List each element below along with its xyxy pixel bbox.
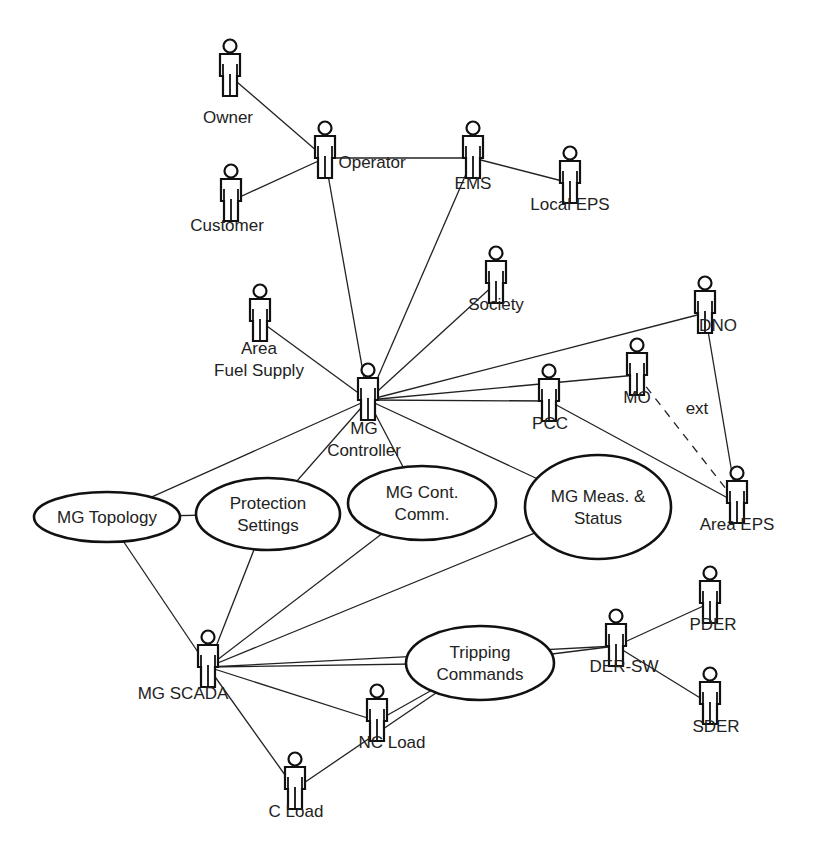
use-case-label: Status — [574, 509, 622, 528]
use-case-ellipse — [406, 626, 554, 700]
edge-operator-mg-controller — [325, 158, 368, 400]
use-case-label: MG Topology — [57, 508, 157, 527]
edge-customer-operator — [231, 158, 325, 201]
actor-label: MO — [623, 388, 650, 407]
use-case-protection-settings[interactable]: ProtectionSettings — [196, 478, 340, 550]
actor-ems[interactable]: EMS — [455, 122, 492, 194]
actor-icon — [315, 122, 335, 179]
actor-label: PCC — [532, 414, 568, 433]
use-case-ellipse — [348, 466, 496, 540]
use-case-mg-meas-status[interactable]: MG Meas. &Status — [525, 455, 671, 559]
actor-dno[interactable]: DNO — [695, 277, 737, 336]
actor-mo[interactable]: MO — [623, 339, 650, 408]
actor-label: Controller — [327, 441, 401, 460]
actor-label: MG SCADA — [138, 684, 229, 703]
use-case-tripping-commands[interactable]: TrippingCommands — [406, 626, 554, 700]
use-case-label: Settings — [237, 516, 298, 535]
actor-label: Customer — [190, 216, 264, 235]
actor-customer[interactable]: Customer — [190, 165, 264, 236]
actor-label: DNO — [699, 316, 737, 335]
use-case-diagram: MG TopologyProtectionSettingsMG Cont.Com… — [0, 0, 815, 850]
actor-icon — [358, 364, 378, 421]
actor-local-eps[interactable]: Local EPS — [530, 147, 609, 215]
edge-mo-mg-controller — [368, 375, 637, 400]
use-case-label: Tripping — [450, 643, 511, 662]
actor-label: Society — [468, 295, 524, 314]
actor-pcc[interactable]: PCC — [532, 365, 568, 434]
edge-ems-mg-controller — [368, 158, 473, 400]
actor-label: Area — [241, 339, 277, 358]
actor-label: Area EPS — [700, 515, 775, 534]
actor-pder[interactable]: PDER — [689, 567, 736, 635]
actor-label: C Load — [269, 802, 324, 821]
edge-mg-scada-nc-load — [208, 667, 377, 721]
actor-label: SDER — [692, 717, 739, 736]
use-case-label: Commands — [437, 665, 524, 684]
use-cases-layer: MG TopologyProtectionSettingsMG Cont.Com… — [34, 455, 671, 700]
actor-sder[interactable]: SDER — [692, 668, 739, 737]
use-case-mg-topology[interactable]: MG Topology — [34, 492, 180, 542]
actor-icon — [463, 122, 483, 179]
edge-dno-mg-controller — [368, 313, 705, 400]
actor-icon — [250, 285, 270, 342]
actor-area-eps[interactable]: Area EPS — [700, 467, 775, 535]
actor-icon — [221, 165, 241, 222]
actor-label: Owner — [203, 108, 253, 127]
actor-area-fuel-supply[interactable]: AreaFuel Supply — [214, 285, 304, 381]
ext-label: ext — [686, 399, 709, 418]
actor-operator[interactable]: Operator — [315, 122, 406, 179]
use-case-ellipse — [196, 478, 340, 550]
actor-mg-scada[interactable]: MG SCADA — [138, 631, 229, 704]
actor-label: DER-SW — [590, 657, 659, 676]
actor-label: EMS — [455, 174, 492, 193]
actor-nc-load[interactable]: NC Load — [358, 685, 425, 753]
use-case-ellipse — [525, 455, 671, 559]
actor-label: NC Load — [358, 733, 425, 752]
actor-label: Local EPS — [530, 195, 609, 214]
edge-pcc-mg-controller — [368, 400, 549, 401]
use-case-label: MG Cont. — [386, 483, 459, 502]
actor-icon — [285, 753, 305, 810]
actor-label: PDER — [689, 615, 736, 634]
use-case-label: Comm. — [395, 505, 450, 524]
actor-icon — [627, 339, 647, 396]
use-case-mg-cont-comm[interactable]: MG Cont.Comm. — [348, 466, 496, 540]
actor-label: MG — [350, 419, 377, 438]
actor-icon — [700, 668, 720, 725]
actor-der-sw[interactable]: DER-SW — [590, 610, 659, 677]
actor-icon — [539, 365, 559, 422]
actor-owner[interactable]: Owner — [203, 40, 253, 128]
use-case-label: Protection — [230, 494, 307, 513]
actor-label: Operator — [338, 153, 405, 172]
actor-icon — [220, 40, 240, 97]
actor-society[interactable]: Society — [468, 247, 524, 315]
actor-icon — [198, 631, 218, 688]
use-case-label: MG Meas. & — [551, 487, 646, 506]
actors-layer: OwnerOperatorCustomerEMSLocal EPSSociety… — [138, 40, 775, 822]
actor-label: Fuel Supply — [214, 361, 304, 380]
